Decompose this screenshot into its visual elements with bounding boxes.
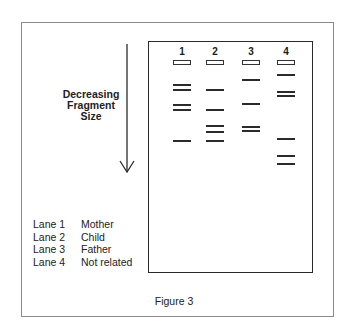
- legend-lane-id: Lane 3: [33, 243, 81, 256]
- figure-caption: Figure 3: [0, 295, 348, 307]
- dna-band: [173, 140, 191, 142]
- dna-band: [277, 155, 295, 157]
- lane-well-1: [173, 60, 191, 65]
- down-arrow-icon: [115, 42, 139, 176]
- dna-band: [242, 130, 260, 132]
- lane-number-2: 2: [206, 47, 224, 57]
- lane-number-4: 4: [277, 47, 295, 57]
- legend-row-lane-3: Lane 3 Father: [33, 243, 132, 256]
- dna-band: [173, 109, 191, 111]
- lane-well-2: [206, 60, 224, 65]
- dna-band: [173, 89, 191, 91]
- lane-well-4: [277, 60, 295, 65]
- lane-number-3: 3: [242, 47, 260, 57]
- legend-lane-label: Not related: [81, 256, 132, 269]
- dna-band: [277, 95, 295, 97]
- lane-legend: Lane 1 Mother Lane 2 Child Lane 3 Father…: [33, 218, 132, 268]
- dna-band: [277, 91, 295, 93]
- dna-band: [242, 79, 260, 81]
- legend-lane-label: Mother: [81, 218, 114, 231]
- legend-lane-id: Lane 4: [33, 256, 81, 269]
- legend-row-lane-2: Lane 2 Child: [33, 231, 132, 244]
- dna-band: [242, 126, 260, 128]
- dna-band: [242, 103, 260, 105]
- dna-band: [277, 74, 295, 76]
- dna-band: [206, 125, 224, 127]
- dna-band: [277, 163, 295, 165]
- legend-lane-label: Child: [81, 231, 105, 244]
- dna-band: [173, 84, 191, 86]
- legend-lane-label: Father: [81, 243, 111, 256]
- gel-box: [148, 41, 313, 273]
- dna-band: [206, 131, 224, 133]
- dna-band: [173, 104, 191, 106]
- lane-well-3: [242, 60, 260, 65]
- legend-row-lane-1: Lane 1 Mother: [33, 218, 132, 231]
- legend-lane-id: Lane 1: [33, 218, 81, 231]
- dna-band: [277, 138, 295, 140]
- lane-number-1: 1: [173, 47, 191, 57]
- dna-band: [206, 140, 224, 142]
- legend-lane-id: Lane 2: [33, 231, 81, 244]
- legend-row-lane-4: Lane 4 Not related: [33, 256, 132, 269]
- dna-band: [206, 109, 224, 111]
- dna-band: [206, 89, 224, 91]
